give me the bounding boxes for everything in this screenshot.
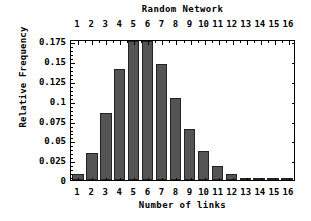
tick-mark xyxy=(294,47,295,48)
tick-mark xyxy=(127,180,128,181)
bar-12 xyxy=(226,174,237,180)
bar-15 xyxy=(267,178,278,180)
bar-slot-7 xyxy=(155,41,169,180)
tick-mark xyxy=(198,180,199,181)
y-tick-label-0.125: 0.125 xyxy=(39,78,66,87)
tick-mark xyxy=(268,180,269,181)
tick-mark xyxy=(294,79,295,80)
bottom-tick-label-14: 14 xyxy=(253,186,267,198)
bar-16 xyxy=(281,178,292,180)
tick-mark xyxy=(294,174,295,175)
bottom-tick-label-12: 12 xyxy=(225,186,239,198)
bar-1 xyxy=(72,174,83,180)
plot-area xyxy=(70,40,295,181)
tick-mark xyxy=(282,180,283,181)
tick-mark xyxy=(294,158,295,159)
bar-slot-14 xyxy=(252,41,266,180)
bar-slot-10 xyxy=(196,41,210,180)
tick-mark xyxy=(294,71,295,72)
tick-mark xyxy=(294,146,295,147)
bar-10 xyxy=(198,151,209,180)
tick-mark xyxy=(212,180,213,181)
tick-mark xyxy=(294,178,295,179)
tick-mark xyxy=(294,91,295,92)
tick-mark xyxy=(85,180,86,181)
bar-slot-12 xyxy=(224,41,238,180)
y-tick-label-0.05: 0.05 xyxy=(44,137,66,146)
bottom-tick-label-9: 9 xyxy=(183,186,197,198)
bar-slot-6 xyxy=(141,41,155,180)
bottom-tick-label-1: 1 xyxy=(70,186,84,198)
y-tick-label-0.15: 0.15 xyxy=(44,58,66,67)
tick-mark xyxy=(294,138,295,139)
bottom-tick-label-4: 4 xyxy=(112,186,126,198)
tick-mark xyxy=(294,166,295,167)
tick-mark xyxy=(294,170,295,171)
bar-slot-5 xyxy=(127,41,141,180)
tick-mark xyxy=(169,180,170,181)
bottom-tick-label-15: 15 xyxy=(267,186,281,198)
tick-mark xyxy=(113,180,114,181)
bar-slot-2 xyxy=(85,41,99,180)
bottom-tick-label-10: 10 xyxy=(197,186,211,198)
tick-mark xyxy=(294,87,295,88)
top-axis-tick-labels: 12345678910111213141516 xyxy=(70,18,295,30)
chart-title: Random Network xyxy=(70,4,295,14)
tick-mark xyxy=(294,51,295,52)
tick-mark xyxy=(294,154,295,155)
top-tick-label-7: 7 xyxy=(154,18,168,30)
bottom-tick-label-8: 8 xyxy=(168,186,182,198)
tick-mark xyxy=(99,180,100,181)
y-axis-tick-labels: 00.0250.050.0750.10.1250.150.175 xyxy=(12,38,66,184)
bar-3 xyxy=(100,113,111,180)
bar-slot-11 xyxy=(210,41,224,180)
tick-mark xyxy=(294,131,295,132)
bar-7 xyxy=(156,64,167,180)
bottom-tick-label-3: 3 xyxy=(98,186,112,198)
bar-2 xyxy=(86,153,97,180)
top-tick-label-6: 6 xyxy=(140,18,154,30)
top-tick-label-4: 4 xyxy=(112,18,126,30)
bar-slot-4 xyxy=(113,41,127,180)
tick-mark xyxy=(294,119,295,120)
bar-4 xyxy=(114,69,125,180)
top-tick-label-2: 2 xyxy=(84,18,98,30)
bottom-tick-label-2: 2 xyxy=(84,186,98,198)
y-tick-label-0.175: 0.175 xyxy=(39,38,66,47)
bar-11 xyxy=(212,166,223,180)
tick-mark xyxy=(294,150,295,151)
chart-figure: Random Network 12345678910111213141516 R… xyxy=(0,0,311,221)
tick-mark xyxy=(294,111,295,112)
bottom-axis-tick-labels: 12345678910111213141516 xyxy=(70,186,295,198)
top-tick-label-1: 1 xyxy=(70,18,84,30)
bar-9 xyxy=(184,129,195,180)
bar-series xyxy=(71,41,294,180)
tick-mark xyxy=(294,127,295,128)
top-tick-label-5: 5 xyxy=(126,18,140,30)
bar-slot-1 xyxy=(71,41,85,180)
bar-slot-13 xyxy=(238,41,252,180)
tick-mark xyxy=(240,180,241,181)
tick-mark xyxy=(294,99,295,100)
top-tick-label-16: 16 xyxy=(281,18,295,30)
bar-slot-8 xyxy=(169,41,183,180)
tick-mark xyxy=(254,180,255,181)
top-tick-label-13: 13 xyxy=(239,18,253,30)
y-tick-label-0.075: 0.075 xyxy=(39,118,66,127)
bottom-tick-label-11: 11 xyxy=(211,186,225,198)
y-tick-label-0.1: 0.1 xyxy=(50,98,66,107)
top-tick-label-8: 8 xyxy=(168,18,182,30)
bar-slot-9 xyxy=(183,41,197,180)
y-tick-label-0.025: 0.025 xyxy=(39,157,66,166)
top-tick-label-10: 10 xyxy=(197,18,211,30)
bottom-tick-label-6: 6 xyxy=(140,186,154,198)
bar-slot-15 xyxy=(266,41,280,180)
tick-mark xyxy=(294,75,295,76)
bottom-tick-label-13: 13 xyxy=(239,186,253,198)
bottom-tick-label-16: 16 xyxy=(281,186,295,198)
tick-mark xyxy=(294,59,295,60)
top-tick-label-14: 14 xyxy=(253,18,267,30)
bar-slot-16 xyxy=(280,41,294,180)
bar-5 xyxy=(128,41,139,180)
bar-slot-3 xyxy=(99,41,113,180)
